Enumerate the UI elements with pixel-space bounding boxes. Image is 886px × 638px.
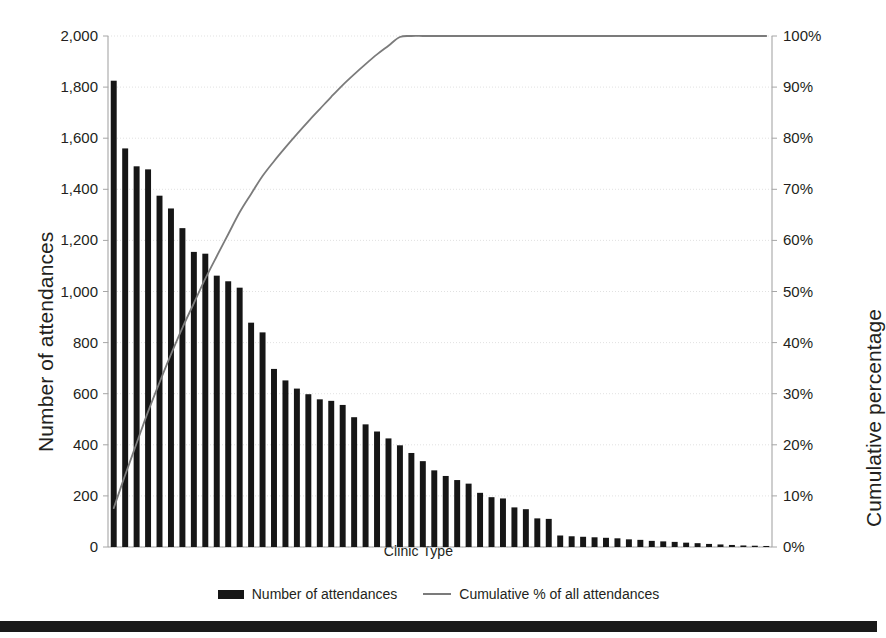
bar (557, 536, 563, 548)
legend-line-swatch-icon (423, 593, 451, 595)
bar (523, 509, 529, 547)
bar (443, 476, 449, 547)
cumulative-percentage-line (114, 36, 767, 508)
bar (752, 546, 758, 547)
bar (637, 540, 643, 547)
bar (706, 544, 712, 547)
bar (191, 252, 197, 547)
bar (248, 323, 254, 547)
bar (328, 401, 334, 547)
bar (546, 519, 552, 547)
bar (695, 543, 701, 547)
legend-entry: Cumulative % of all attendances (423, 586, 659, 602)
bar (363, 424, 369, 547)
bar (718, 544, 724, 547)
bar (466, 484, 472, 547)
bar (569, 536, 575, 547)
bar (763, 546, 769, 547)
bar (500, 498, 506, 547)
bar (214, 276, 220, 547)
bar (122, 148, 128, 547)
legend-label: Cumulative % of all attendances (459, 586, 659, 602)
bar (626, 539, 632, 547)
bar (294, 389, 300, 547)
bar (649, 541, 655, 547)
chart-legend: Number of attendancesCumulative % of all… (0, 586, 877, 602)
bar (374, 432, 380, 547)
bar (683, 543, 689, 547)
bar (580, 537, 586, 547)
bar (431, 470, 437, 547)
bar (397, 445, 403, 547)
bar (477, 493, 483, 547)
bar-series (111, 81, 770, 547)
bar (489, 497, 495, 547)
bar (408, 453, 414, 547)
bar (386, 438, 392, 547)
bar (202, 254, 208, 547)
bar (614, 538, 620, 547)
bar (237, 288, 243, 547)
bar (225, 281, 231, 547)
bar (317, 399, 323, 547)
bar (282, 380, 288, 547)
bar (454, 480, 460, 547)
legend-entry: Number of attendances (218, 586, 398, 602)
bar (351, 417, 357, 547)
bar (740, 545, 746, 547)
bar (111, 81, 117, 547)
bar (592, 537, 598, 547)
legend-bar-swatch-icon (218, 590, 244, 599)
bar (134, 166, 140, 547)
bar (271, 369, 277, 547)
bar (145, 169, 151, 547)
bar (420, 461, 426, 547)
bar (511, 507, 517, 547)
bar (340, 405, 346, 547)
bar (672, 542, 678, 547)
bar (168, 208, 174, 547)
bar (260, 332, 266, 547)
legend-label: Number of attendances (252, 586, 398, 602)
bottom-rule-divider (0, 621, 877, 632)
bar (660, 541, 666, 547)
bar (179, 228, 185, 547)
bar (305, 394, 311, 547)
bar (157, 196, 163, 547)
bar (603, 538, 609, 547)
bar (534, 518, 540, 547)
bar (729, 545, 735, 547)
